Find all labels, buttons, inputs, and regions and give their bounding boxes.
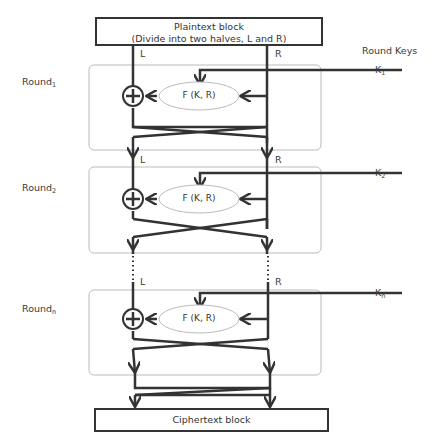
label-l-2: L: [140, 154, 145, 165]
round-label-1: Round1: [22, 76, 56, 89]
f-function-2: F (K, R): [159, 193, 239, 203]
plaintext-subtitle: (Divide into two halves, L and R): [97, 33, 321, 45]
round-keys-label: Round Keys: [362, 45, 417, 56]
diagram-lines: [0, 0, 435, 448]
label-l-n: L: [140, 276, 145, 287]
round-label-n: Roundn: [22, 303, 56, 316]
ciphertext-block: Ciphertext block: [94, 408, 329, 432]
label-r-n: R: [275, 276, 282, 287]
key-label-2: K2: [375, 167, 385, 180]
plaintext-block: Plaintext block (Divide into two halves,…: [95, 17, 323, 46]
label-l-1: L: [140, 48, 145, 59]
plaintext-title: Plaintext block: [97, 21, 321, 33]
round-label-2: Round2: [22, 182, 56, 195]
f-function-n: F (K, R): [159, 313, 239, 323]
key-label-1: K1: [375, 64, 385, 77]
f-function-1: F (K, R): [159, 90, 239, 100]
label-r-2: R: [275, 154, 282, 165]
label-r-1: R: [275, 48, 282, 59]
ciphertext-label: Ciphertext block: [172, 414, 250, 425]
key-label-n: Kn: [375, 287, 385, 300]
